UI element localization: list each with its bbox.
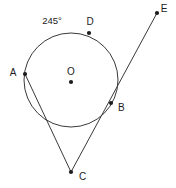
- point-a-label: A: [10, 67, 17, 78]
- ray-c-through-b-to-e: [71, 13, 157, 172]
- point-o-center-dot: [69, 80, 73, 84]
- geometry-figure: A B C D E O 245°: [0, 0, 176, 188]
- point-d-dot: [87, 31, 91, 35]
- arc-measure-label: 245°: [42, 15, 62, 26]
- point-a-dot: [23, 72, 27, 76]
- point-b-dot: [109, 101, 113, 105]
- point-o-label: O: [67, 66, 75, 77]
- point-e-dot: [155, 11, 159, 15]
- segment-a-to-c: [25, 74, 71, 172]
- point-c-dot: [69, 170, 73, 174]
- point-d-label: D: [86, 16, 93, 27]
- point-c-label: C: [79, 171, 86, 182]
- point-b-label: B: [118, 102, 125, 113]
- point-e-label: E: [161, 3, 168, 14]
- geometry-canvas: A B C D E O 245°: [0, 0, 176, 188]
